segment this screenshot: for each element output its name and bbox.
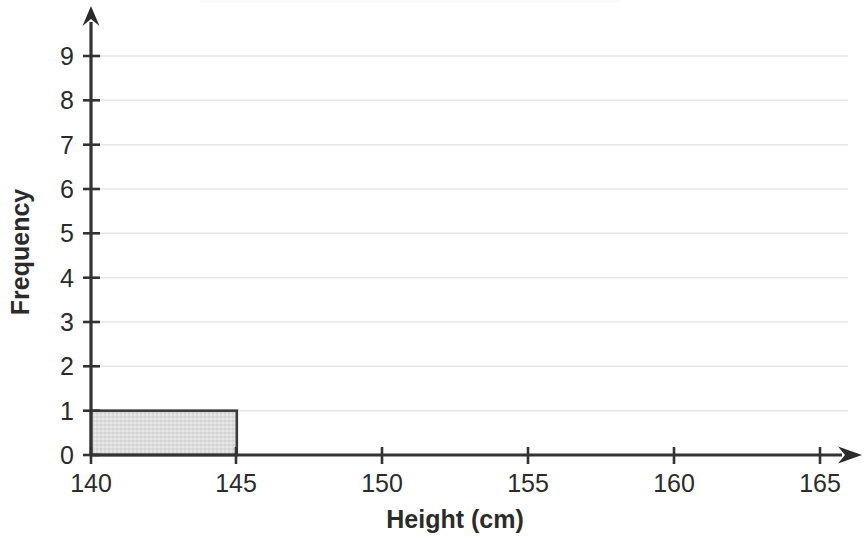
bars-group: [91, 411, 237, 455]
y-tick-label-9: 9: [60, 42, 74, 70]
y-axis: [83, 6, 101, 456]
y-tick-label-6: 6: [60, 175, 74, 203]
y-axis-title: Frequency: [6, 189, 34, 316]
y-tick-label-3: 3: [60, 308, 74, 336]
y-tick-label-1: 1: [60, 397, 74, 425]
x-tick-label-140: 140: [70, 469, 112, 497]
x-tick-label-150: 150: [361, 469, 403, 497]
x-tick-label-165: 165: [799, 469, 841, 497]
x-tick-label-160: 160: [653, 469, 695, 497]
y-tick-label-0: 0: [60, 441, 74, 469]
y-tick-label-5: 5: [60, 219, 74, 247]
x-tick-labels: 140 145 150 155 160 165: [70, 469, 841, 497]
histogram-bar: [91, 411, 237, 455]
scan-artifact: [200, 0, 620, 3]
y-tick-label-4: 4: [60, 264, 74, 292]
y-tick-label-7: 7: [60, 131, 74, 159]
histogram-chart: 0 1 2 3 4 5 6 7 8 9 140 145 150 155 160 …: [0, 0, 865, 540]
y-tick-label-8: 8: [60, 86, 74, 114]
x-axis-title: Height (cm): [386, 505, 524, 533]
chart-canvas: 0 1 2 3 4 5 6 7 8 9 140 145 150 155 160 …: [0, 0, 865, 540]
y-tick-labels: 0 1 2 3 4 5 6 7 8 9: [60, 42, 74, 469]
x-tick-label-145: 145: [215, 469, 257, 497]
y-tick-label-2: 2: [60, 352, 74, 380]
x-tick-label-155: 155: [507, 469, 549, 497]
gridlines-group: [91, 56, 848, 411]
